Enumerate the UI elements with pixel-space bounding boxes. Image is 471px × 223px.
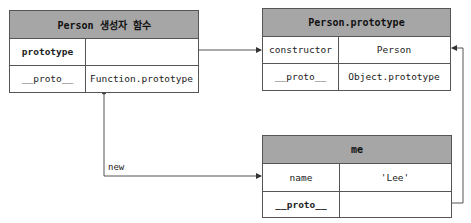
person-constructor-box: Person 생성자 함수 prototype __proto__ Functi… xyxy=(9,10,199,93)
row-value: Object.prototype xyxy=(338,63,450,90)
row-key: constructor xyxy=(263,36,339,63)
person-proto-row: __proto__ Function.prototype xyxy=(10,65,198,92)
row-key: __proto__ xyxy=(10,65,86,92)
row-value: 'Lee' xyxy=(339,163,451,191)
person-constructor-title: Person 생성자 함수 xyxy=(10,11,198,39)
row-value xyxy=(85,38,198,65)
row-value xyxy=(339,191,451,217)
person-prototype-box: Person.prototype constructor Person __pr… xyxy=(262,8,451,91)
name-row: name 'Lee' xyxy=(263,163,451,192)
row-key: __proto__ xyxy=(263,63,339,90)
row-value: Function.prototype xyxy=(85,65,198,92)
row-key: __proto__ xyxy=(263,191,340,217)
new-label: new xyxy=(108,162,124,172)
row-key: name xyxy=(263,163,340,191)
person-prototype-title: Person.prototype xyxy=(263,9,450,37)
row-key: prototype xyxy=(10,38,86,65)
me-proto-row: __proto__ xyxy=(263,191,451,217)
person-prototype-row: prototype xyxy=(10,38,198,66)
me-title: me xyxy=(263,136,451,164)
new-arrow xyxy=(102,90,261,176)
constructor-row: constructor Person xyxy=(263,36,450,64)
row-value: Person xyxy=(338,36,450,63)
prototype-proto-row: __proto__ Object.prototype xyxy=(263,63,450,90)
me-box: me name 'Lee' __proto__ xyxy=(262,135,452,218)
